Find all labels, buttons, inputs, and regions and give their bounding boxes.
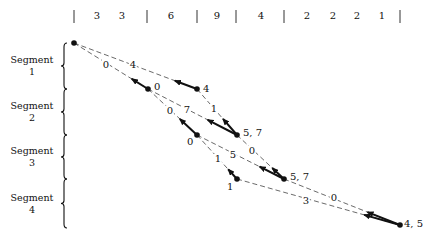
header-number: 4 [258,10,264,21]
network-diagram [0,0,433,245]
node-label: 0 [154,81,160,92]
header-number: 1 [379,10,385,21]
segment-label-number: 2 [4,112,60,124]
edge-weight-label: 3 [302,196,310,206]
edge-weight-label: 7 [183,105,191,115]
arrow-icon [223,119,237,135]
edge-weight-label: 1 [214,154,222,164]
diagram-canvas: 336942221Segment1Segment2Segment3Segment… [0,0,433,245]
node-label: 5, 7 [243,127,262,138]
segment-bracket [61,43,67,89]
segment-label: Segment1 [4,54,60,78]
segment-label: Segment2 [4,100,60,124]
segment-bracket [61,135,67,179]
header-number: 9 [214,10,220,21]
back-arrows [132,79,400,225]
header-number: 6 [168,10,174,21]
node-dot-icon [234,176,240,182]
arrow-icon [180,119,197,135]
node-label: 4, 5 [404,218,423,229]
node-dot-icon [145,86,151,92]
header-number: 3 [94,10,100,21]
segment-label-number: 1 [4,66,60,78]
node-dot-icon [397,222,403,228]
segment-label-title: Segment [4,145,60,157]
segment-label-number: 4 [4,204,60,216]
segment-label-title: Segment [4,54,60,66]
edge-weight-label: 1 [210,104,218,114]
node-dot-icon [234,132,240,138]
node-label: 4 [203,83,209,94]
segment-label-title: Segment [4,100,60,112]
node-dot-icon [194,132,200,138]
node-label: 0 [187,136,193,147]
edge-weight-label: 5 [229,150,237,160]
segment-label-title: Segment [4,192,60,204]
edge-weight-label: 0 [166,106,174,116]
nodes [71,40,403,228]
node-dot-icon [71,40,77,46]
edge-weight-label: 0 [102,60,110,70]
header-number: 3 [119,10,125,21]
edge-weight-label: 0 [248,146,256,156]
header-number: 2 [354,10,360,21]
arrow-icon [175,81,197,89]
node-dot-icon [281,176,287,182]
header-number: 2 [330,10,336,21]
header-number: 2 [304,10,310,21]
node-dot-icon [194,86,200,92]
segment-brackets [61,43,67,228]
segment-bracket [61,89,67,135]
segment-label: Segment3 [4,145,60,169]
arrow-icon [368,212,400,225]
node-label: 5, 7 [290,171,309,182]
arrow-icon [208,120,237,135]
edge-weight-label: 0 [330,193,338,203]
segment-bracket [61,179,67,228]
node-label: 1 [227,181,233,192]
segment-label-number: 3 [4,157,60,169]
segment-label: Segment4 [4,192,60,216]
edge-weight-label: 4 [129,60,137,70]
arrow-icon [132,79,148,89]
